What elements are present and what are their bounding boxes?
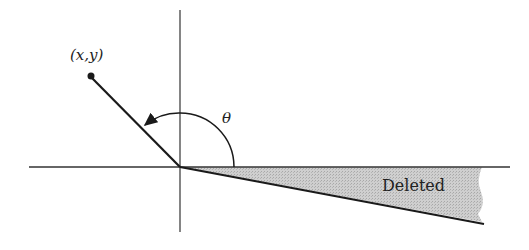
deleted-label: Deleted	[382, 176, 445, 195]
angle-label: θ	[222, 109, 231, 127]
angle-arc	[145, 113, 234, 167]
terminal-ray	[90, 76, 180, 167]
point-label: (x,y)	[70, 46, 104, 64]
point-marker	[88, 73, 95, 80]
angle-diagram: (x,y) θ Deleted	[0, 0, 529, 250]
